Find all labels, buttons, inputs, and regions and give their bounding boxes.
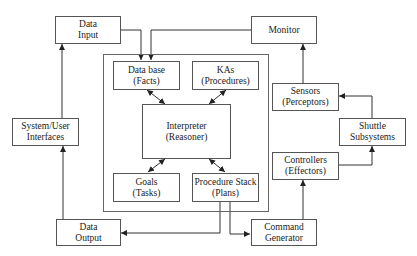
label: Monitor [268,25,299,36]
label: (Procedures) [201,76,250,87]
label: Generator [265,233,303,244]
label: Shuttle [359,121,386,132]
label: Data [79,19,97,30]
label: Data base [128,65,165,76]
label: (Effectors) [285,166,326,177]
label: (Reasoner) [166,132,208,143]
node-command-generator: Command Generator [251,219,317,246]
label: Data [80,222,98,233]
label: KAs [217,65,234,76]
label: Goals [135,177,157,188]
label: Interfaces [27,132,64,143]
label: Command [264,222,304,233]
label: (Plans) [212,188,239,199]
node-data-output: Data Output [56,219,121,246]
node-procedure-stack: Procedure Stack (Plans) [192,173,259,202]
label: Controllers [284,155,327,166]
label: (Perceptors) [282,97,328,108]
label: Subsystems [350,132,395,143]
edge-shuttle-sensors [339,96,372,118]
label: (Facts) [133,76,159,87]
node-goals: Goals (Tasks) [113,173,180,202]
label: (Tasks) [133,188,161,199]
node-data-base: Data base (Facts) [113,61,180,90]
node-shuttle-subsystems: Shuttle Subsystems [339,118,406,146]
node-kas: KAs (Procedures) [192,61,259,90]
edge-controllers-shuttle [338,146,372,165]
label: Input [78,30,98,41]
label: Sensors [291,86,321,97]
label: Output [75,233,101,244]
label: Interpreter [166,121,206,132]
node-monitor: Monitor [251,16,317,44]
node-sensors: Sensors (Perceptors) [272,83,339,111]
node-data-input: Data Input [55,16,121,44]
label: Procedure Stack [195,177,257,188]
label: System/User [21,121,70,132]
node-system-user-interfaces: System/User Interfaces [12,118,79,146]
node-interpreter: Interpreter (Reasoner) [142,104,231,159]
node-controllers: Controllers (Effectors) [272,152,339,180]
